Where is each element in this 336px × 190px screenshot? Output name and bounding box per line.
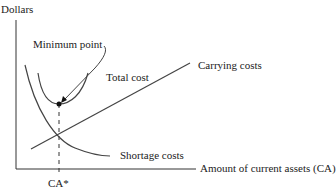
minimum-point-dot (57, 102, 62, 107)
shortage-costs-curve (25, 65, 110, 156)
carrying-costs-label: Carrying costs (198, 59, 262, 71)
y-axis-label: Dollars (1, 3, 33, 15)
minimum-point-label: Minimum point (33, 38, 102, 50)
minimum-point-arrow (64, 46, 106, 100)
total-cost-label: Total cost (106, 71, 149, 83)
x-axis-label: Amount of current assets (CA) (200, 162, 336, 174)
shortage-costs-label: Shortage costs (120, 149, 184, 161)
ca-star-label: CA* (48, 177, 69, 189)
arrow-head-icon (61, 96, 67, 103)
